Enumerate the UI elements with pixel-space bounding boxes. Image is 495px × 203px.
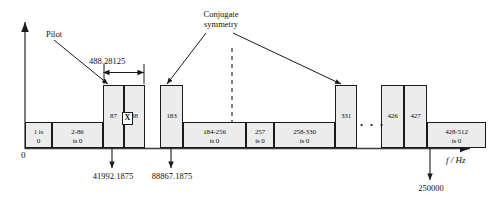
bin-183: 183 [160,85,183,148]
frequency-callout-88867: 88867.1875 [133,171,211,181]
frequency-callout-88867-label: 88867.1875 [152,171,192,181]
bin-258-330: 258-330is 0 [274,122,335,148]
bin-427-label: 427 [405,86,426,123]
x-axis-unit-label: f / Hz [446,155,466,165]
conjugate-symmetry-label-line2: symmetry [204,19,238,29]
conjugate-symmetry-leader-lines [167,33,341,84]
bin-428-512-label: 428-512is 0 [428,127,485,147]
conjugate-symmetry-annotation: Conjugate symmetry [186,9,256,29]
bin-87-label: 87 [104,86,123,123]
bin-427: 427 [404,85,427,148]
ofdm-subcarrier-spectrum-diagram: 1 is02-86is 08788183184-256is 0257is 025… [0,0,495,203]
bin-2-86-label: 2-86is 0 [53,127,102,147]
pilot-annotation: Pilot [46,29,62,39]
subcarrier-spacing-label: 488.28125 [89,56,125,66]
bin-428-512: 428-512is 0 [427,122,486,148]
bin-331: 331 [335,85,357,148]
x-marker-label: X [125,113,131,122]
bin-257: 257is 0 [246,122,274,148]
bin-2-86: 2-86is 0 [52,122,103,148]
origin-label: 0 [21,150,26,160]
ellipsis-marker: . . . [360,117,385,127]
subcarrier-spacing-dimension [104,64,144,84]
origin-value: 0 [21,150,26,160]
frequency-callout-250000-label: 250000 [418,183,444,193]
pilot-label: Pilot [46,29,62,39]
subcarrier-spacing-annotation: 488.28125 [89,56,125,66]
bin-87: 87 [103,85,124,148]
frequency-callout-41992-label: 41992.1875 [93,171,133,181]
ellipsis-label: . . . [360,115,385,129]
x-marker-box: X [122,112,133,125]
bin-183-label: 183 [161,86,182,123]
conjugate-symmetry-label-line1: Conjugate [204,9,239,19]
bin-1-label: 1 is0 [26,127,51,147]
bin-184-256: 184-256is 0 [183,122,246,148]
bin-257-label: 257is 0 [247,127,273,147]
frequency-callout-250000: 250000 [396,183,466,193]
bin-258-330-label: 258-330is 0 [275,127,334,147]
bin-331-label: 331 [336,86,356,123]
x-axis-unit-text: f / Hz [446,155,466,165]
bin-184-256-label: 184-256is 0 [184,127,245,147]
bin-1: 1 is0 [25,122,52,148]
bin-426-label: 426 [382,86,403,123]
